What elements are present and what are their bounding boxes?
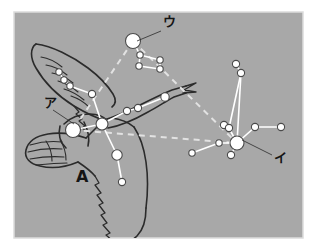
star-alshain <box>227 151 234 158</box>
star-cygnus-w2 <box>61 77 67 83</box>
star-lyra-e <box>157 66 163 72</box>
star-lyra-b <box>137 52 143 58</box>
star-zeta-cygni <box>118 178 125 185</box>
star-lyra-d <box>157 57 163 63</box>
star-tarazed <box>225 124 232 131</box>
star-altair <box>230 136 244 150</box>
star-sadr <box>96 118 108 130</box>
star-cygnus-w1 <box>56 69 62 75</box>
star-chart-figure: ア イ ウ A <box>0 0 315 250</box>
star-aquila-e2 <box>277 123 284 130</box>
sky-panel <box>14 12 303 238</box>
star-cygnus-w3 <box>67 83 73 89</box>
star-vega <box>126 34 141 49</box>
star-aquila-e1 <box>251 123 258 130</box>
star-epsilon-cygni <box>112 150 122 160</box>
label-i-katakana: イ <box>274 150 287 165</box>
star-deneb <box>66 123 81 138</box>
star-lyra-c <box>136 63 142 69</box>
star-delta-cygni <box>123 107 130 114</box>
label-figure-a: A <box>76 167 89 186</box>
star-aquila-w3 <box>189 150 195 156</box>
star-aquila-n2 <box>237 69 244 76</box>
star-aquila-n1 <box>232 60 239 67</box>
star-aquila-w2 <box>216 140 222 146</box>
star-albireo <box>161 93 169 101</box>
star-gienah <box>88 90 95 97</box>
label-u-katakana: ウ <box>163 14 176 29</box>
sky-canvas: ア イ ウ A <box>0 0 315 250</box>
label-a-katakana: ア <box>44 95 57 110</box>
star-eta-cygni <box>134 104 141 111</box>
